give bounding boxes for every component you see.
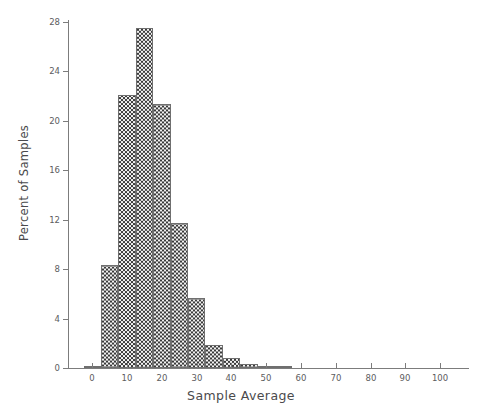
x-axis-tick	[231, 363, 232, 368]
x-axis-tick-label: 50	[251, 374, 281, 383]
y-axis-tick	[63, 368, 68, 369]
y-axis-tick	[63, 319, 68, 320]
x-axis-tick	[162, 363, 163, 368]
y-axis-tick-label: 24	[40, 67, 60, 76]
histogram-bar	[171, 223, 188, 368]
x-axis-tick-label: 60	[286, 374, 316, 383]
y-axis-tick-label: 0	[40, 364, 60, 373]
histogram-bar	[136, 28, 153, 368]
x-axis-tick	[301, 363, 302, 368]
x-axis-tick-label: 100	[425, 374, 455, 383]
x-axis-tick-label: 10	[112, 374, 142, 383]
x-axis-tick-label: 40	[216, 374, 246, 383]
x-axis-tick	[440, 363, 441, 368]
x-axis-line	[67, 368, 469, 369]
x-axis-tick-label: 20	[147, 374, 177, 383]
x-axis-tick	[92, 363, 93, 368]
histogram-figure: 0481216202428 0102030405060708090100 Sam…	[0, 0, 482, 412]
x-axis-title: Sample Average	[0, 388, 482, 403]
x-axis-tick	[197, 363, 198, 368]
x-axis-tick-label: 70	[321, 374, 351, 383]
x-axis-tick	[266, 363, 267, 368]
histogram-bar	[275, 366, 292, 368]
histogram-bars	[68, 22, 468, 368]
histogram-bar	[153, 104, 170, 368]
x-axis-tick	[405, 363, 406, 368]
y-axis-tick	[63, 71, 68, 72]
y-axis-tick-label: 16	[40, 166, 60, 175]
histogram-bar	[188, 298, 205, 368]
x-axis-tick-label: 90	[390, 374, 420, 383]
y-axis-tick-label: 4	[40, 315, 60, 324]
y-axis-tick	[63, 269, 68, 270]
y-axis-tick-label: 12	[40, 216, 60, 225]
y-axis-tick	[63, 121, 68, 122]
y-axis-tick-label: 8	[40, 265, 60, 274]
histogram-bar	[118, 95, 135, 368]
y-axis-tick	[63, 220, 68, 221]
x-axis-tick	[336, 363, 337, 368]
x-axis-tick-label: 0	[77, 374, 107, 383]
x-axis-tick-label: 30	[182, 374, 212, 383]
y-axis-tick	[63, 22, 68, 23]
y-axis-title: Percent of Samples	[17, 73, 31, 293]
y-axis-tick-label: 20	[40, 117, 60, 126]
histogram-bar	[205, 345, 222, 368]
y-axis-tick	[63, 170, 68, 171]
x-axis-tick	[371, 363, 372, 368]
x-axis-tick	[127, 363, 128, 368]
histogram-bar	[101, 265, 118, 368]
y-axis-tick-label: 28	[40, 18, 60, 27]
x-axis-tick-label: 80	[356, 374, 386, 383]
histogram-bar	[240, 364, 257, 368]
